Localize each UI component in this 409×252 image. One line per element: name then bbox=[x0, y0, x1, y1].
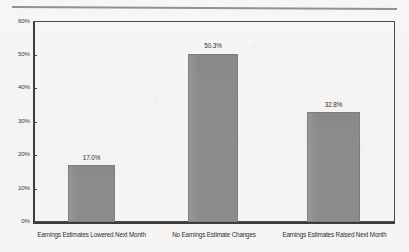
bar-shading bbox=[189, 55, 237, 222]
y-tick-mark-30 bbox=[33, 122, 37, 123]
y-tick-label-text: 0% bbox=[4, 218, 30, 224]
y-tick-mark-60 bbox=[33, 21, 37, 22]
bar-no-changes bbox=[188, 54, 238, 223]
bar-value-label-lowered: 17.0% bbox=[60, 155, 123, 161]
bar-value-label-raised: 32.8% bbox=[301, 102, 366, 108]
y-tick-label-10: 10% bbox=[0, 185, 30, 193]
x-axis-line bbox=[33, 222, 395, 224]
y-tick-mark-20 bbox=[33, 155, 37, 156]
y-tick-label-0: 0% bbox=[0, 218, 30, 226]
bar-earnings-raised bbox=[307, 112, 360, 222]
y-tick-label-text: 50% bbox=[4, 51, 30, 57]
bar-value-label-no-changes: 50.3% bbox=[181, 43, 245, 49]
y-tick-label-text: 20% bbox=[4, 151, 30, 157]
y-tick-label-30: 30% bbox=[0, 118, 30, 126]
bar-shading bbox=[308, 113, 359, 221]
bar-shading bbox=[69, 166, 114, 221]
y-tick-label-text: 10% bbox=[4, 185, 30, 191]
y-tick-label-40: 40% bbox=[0, 84, 30, 92]
bar-chart-figure: 60% 50% 40% 30% 20% 10% 0% 17.0% 50.3% 3… bbox=[0, 0, 409, 252]
y-tick-mark-10 bbox=[33, 189, 37, 190]
y-tick-mark-50 bbox=[33, 55, 37, 56]
top-divider-rule bbox=[12, 6, 397, 9]
y-tick-label-20: 20% bbox=[0, 151, 30, 159]
category-label-no-changes: No Earnings Estimate Changes bbox=[152, 232, 276, 238]
y-tick-label-60: 60% bbox=[0, 18, 30, 26]
y-tick-label-text: 40% bbox=[4, 84, 30, 90]
category-label-earnings-raised: Earnings Estimates Raised Next Month bbox=[263, 232, 406, 238]
bar-earnings-lowered bbox=[68, 165, 115, 222]
category-label-earnings-lowered: Earnings Estimates Lowered Next Month bbox=[14, 232, 169, 238]
y-tick-label-text: 60% bbox=[4, 18, 30, 24]
y-tick-mark-40 bbox=[33, 88, 37, 89]
y-tick-label-text: 30% bbox=[4, 118, 30, 124]
y-tick-label-50: 50% bbox=[0, 51, 30, 59]
